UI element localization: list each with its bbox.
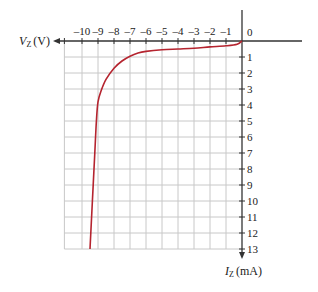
x-tick-label: –9 <box>92 25 105 37</box>
y-tick-label: 10 <box>247 195 259 207</box>
y-tick-label: 6 <box>247 131 253 143</box>
x-tick-label: –2 <box>204 25 216 37</box>
x-tick-label: –5 <box>156 25 169 37</box>
zener-curve <box>90 41 242 249</box>
zener-characteristic-chart: –10–9–8–7–6–5–4–3–2–112345678910111213 0… <box>0 0 318 292</box>
x-tick-label: –6 <box>140 25 153 37</box>
x-tick-label: –7 <box>124 25 137 37</box>
y-tick-label: 4 <box>247 99 253 111</box>
y-tick-label: 12 <box>247 227 258 239</box>
y-axis-title: IZ(mA) <box>224 264 262 279</box>
y-tick-label: 13 <box>247 243 259 255</box>
x-tick-label: –4 <box>172 25 185 37</box>
y-tick-label: 1 <box>247 51 253 63</box>
x-axis-arrow-icon <box>53 38 60 44</box>
y-tick-label: 5 <box>247 115 253 127</box>
y-tick-label: 8 <box>247 163 253 175</box>
x-tick-label: –1 <box>220 25 232 37</box>
x-tick-label: –10 <box>73 25 91 37</box>
y-tick-label: 3 <box>247 83 253 95</box>
x-axis-title: VZ(V) <box>19 34 50 49</box>
y-tick-label: 2 <box>247 67 253 79</box>
x-tick-label: –8 <box>108 25 121 37</box>
y-axis-arrow-icon <box>239 252 245 259</box>
y-tick-label: 11 <box>247 211 258 223</box>
y-tick-label: 9 <box>247 179 253 191</box>
origin-label: 0 <box>247 26 253 38</box>
x-tick-label: –3 <box>188 25 201 37</box>
y-tick-label: 7 <box>247 147 253 159</box>
chart-ticks: –10–9–8–7–6–5–4–3–2–112345678910111213 <box>64 25 258 255</box>
